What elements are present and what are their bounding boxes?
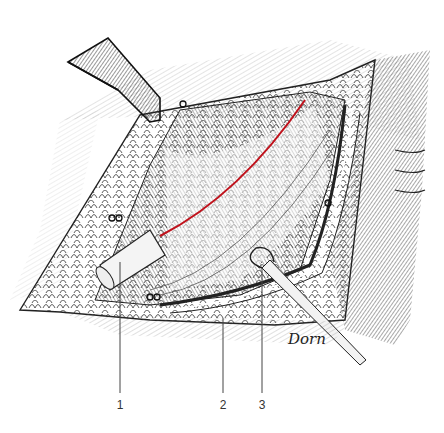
label-1: 1 bbox=[117, 398, 124, 412]
surgical-illustration bbox=[0, 0, 444, 433]
label-2: 2 bbox=[220, 398, 227, 412]
label-3: 3 bbox=[259, 398, 266, 412]
artist-signature: Dorn bbox=[288, 330, 326, 348]
